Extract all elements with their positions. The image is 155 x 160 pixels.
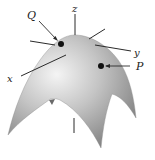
label-p: P	[135, 60, 144, 73]
dome-surface	[8, 35, 136, 148]
label-q: Q	[27, 9, 36, 22]
surface-diagram: z Q y P x	[0, 0, 155, 160]
inner-arch-shadow	[49, 99, 55, 105]
label-x: x	[7, 73, 13, 84]
axis-back-right	[89, 29, 105, 39]
point-p	[98, 63, 104, 69]
label-y: y	[133, 47, 140, 58]
label-z: z	[71, 3, 78, 14]
axis-back-left	[30, 41, 55, 45]
point-q	[58, 41, 64, 47]
q-pointer-line	[39, 21, 57, 40]
